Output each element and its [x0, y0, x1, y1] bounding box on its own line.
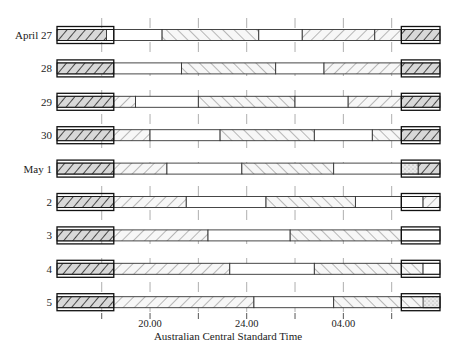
timeline-chart: April 27282930May 12345 20.0024.0004.00 …	[0, 0, 456, 354]
segment-clear	[167, 163, 242, 174]
row-label: April 27	[15, 29, 52, 41]
segment-clear	[186, 197, 266, 208]
segment-clear	[423, 263, 440, 274]
row-label: 28	[41, 62, 53, 74]
segment-clear	[314, 130, 372, 141]
segment-fwd	[114, 230, 208, 241]
segment-dark	[57, 263, 114, 274]
segment-dark	[57, 163, 114, 174]
segment-dark	[401, 130, 440, 141]
segment-back	[314, 263, 401, 274]
segment-fwd	[114, 197, 186, 208]
segment-back	[334, 297, 402, 308]
segment-dark	[401, 63, 440, 74]
segment-dark	[401, 96, 440, 107]
x-tick-label: 04.00	[332, 318, 356, 329]
row-label: 2	[47, 196, 53, 208]
timeline-row: April 27	[15, 27, 440, 44]
segment-clear	[259, 30, 302, 41]
segment-clear	[114, 63, 182, 74]
segment-dark	[57, 30, 107, 41]
row-label: 5	[47, 296, 53, 308]
segment-dark	[57, 230, 114, 241]
timeline-row: 29	[41, 93, 440, 110]
segment-back	[266, 197, 355, 208]
row-label: May 1	[24, 163, 52, 175]
segment-back	[242, 163, 334, 174]
segment-clear	[230, 263, 315, 274]
x-tick-label: 24.00	[235, 318, 259, 329]
segment-back	[372, 130, 401, 141]
segment-clear	[254, 297, 334, 308]
timeline-row: May 1	[24, 160, 440, 177]
segment-clear	[276, 63, 324, 74]
segment-dark	[418, 163, 440, 174]
timeline-row: 5	[47, 294, 441, 311]
segment-clear	[355, 197, 401, 208]
segment-back	[181, 63, 275, 74]
segment-clear	[114, 30, 162, 41]
segment-dark	[57, 63, 114, 74]
segment-fwd	[114, 297, 254, 308]
row-label: 30	[41, 129, 53, 141]
segment-fwd	[302, 30, 374, 41]
segment-fwd	[114, 163, 167, 174]
segment-stipple	[423, 297, 440, 308]
segment-clear	[208, 230, 290, 241]
segment-fwd	[114, 96, 136, 107]
segment-back	[290, 230, 401, 241]
segment-dark	[57, 297, 114, 308]
timeline-row: 3	[47, 227, 441, 244]
row-label: 29	[41, 96, 53, 108]
x-axis-label: Australian Central Standard Time	[154, 330, 302, 342]
segment-fwd	[114, 263, 230, 274]
segment-clear	[150, 130, 220, 141]
segment-fwd	[423, 197, 440, 208]
segment-clear	[295, 96, 348, 107]
segment-fwd	[114, 130, 150, 141]
segment-dark	[57, 197, 114, 208]
segment-clear	[334, 163, 402, 174]
segment-dark	[57, 130, 114, 141]
timeline-row: 2	[47, 194, 441, 211]
segment-clear	[136, 96, 199, 107]
row-label: 4	[47, 263, 53, 275]
segment-stipple	[401, 163, 418, 174]
segment-fwd	[375, 30, 402, 41]
timeline-row: 30	[41, 127, 440, 144]
row-label: 3	[47, 229, 53, 241]
timeline-row: 4	[47, 260, 441, 277]
timeline-row: 28	[41, 60, 440, 77]
segment-fwd	[324, 63, 401, 74]
x-axis: 20.0024.0004.00	[102, 313, 392, 329]
segment-clear	[401, 197, 423, 208]
segment-dark	[401, 30, 440, 41]
segment-back	[220, 130, 314, 141]
segment-clear	[107, 30, 114, 41]
segment-fwd	[348, 96, 401, 107]
segment-back	[401, 263, 423, 274]
segment-back	[198, 96, 295, 107]
segment-clear	[401, 230, 440, 241]
segment-dark	[57, 96, 114, 107]
x-tick-label: 20.00	[138, 318, 162, 329]
rows-layer: April 27282930May 12345	[15, 27, 440, 311]
segment-back	[162, 30, 259, 41]
